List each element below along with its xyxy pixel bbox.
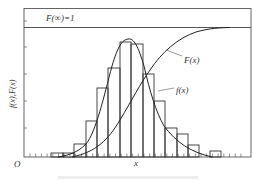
cdf-leader-line (166, 50, 182, 56)
cdf-label: F(x) (183, 55, 200, 65)
histogram-bar (165, 128, 177, 157)
histogram-bar (120, 42, 131, 157)
histogram-bar (143, 74, 154, 157)
pdf-label: f(x) (176, 85, 189, 95)
histogram-bar (108, 68, 120, 157)
x-axis-label: x (133, 158, 138, 168)
histogram-bar (131, 44, 143, 157)
asymptote-label: F(∞)=1 (45, 13, 74, 23)
origin-label: O (14, 159, 21, 169)
plot-frame (24, 9, 251, 158)
caption-placeholder (58, 176, 198, 179)
histogram-bar (97, 88, 108, 157)
histogram-bar (154, 101, 165, 157)
y-axis-label: f(x),F(x) (7, 79, 17, 108)
histogram-bar (210, 151, 221, 157)
histogram-distribution-figure: F(∞)=1 F(x) f(x) O x f(x),F(x) (0, 0, 253, 182)
histogram-bar (177, 134, 188, 157)
pdf-leader-line (158, 88, 174, 91)
